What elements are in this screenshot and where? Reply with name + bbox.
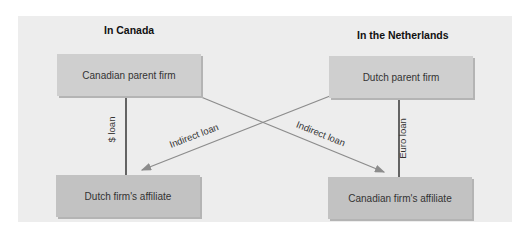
canadian-firm-affiliate-label: Canadian firm's affiliate — [348, 193, 451, 204]
euro-loan-label: Euro loan — [397, 118, 408, 159]
indirect-loan-right-line — [201, 97, 384, 172]
canadian-firm-affiliate-box: Canadian firm's affiliate — [328, 177, 472, 219]
dollar-loan-label: $ loan — [106, 117, 117, 143]
dutch-parent-firm-label: Dutch parent firm — [363, 72, 440, 83]
dutch-parent-firm-box: Dutch parent firm — [329, 56, 473, 98]
dutch-firm-affiliate-label: Dutch firm's affiliate — [85, 191, 172, 202]
canadian-parent-firm-label: Canadian parent firm — [82, 70, 175, 81]
canadian-parent-firm-box: Canadian parent firm — [57, 54, 201, 96]
indirect-loan-left-line — [142, 96, 330, 170]
dutch-firm-affiliate-box: Dutch firm's affiliate — [56, 175, 200, 217]
